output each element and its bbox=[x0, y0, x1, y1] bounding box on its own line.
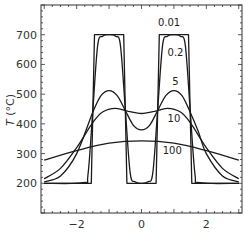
axis-ticks bbox=[41, 5, 242, 213]
curve-label: 10 bbox=[168, 113, 181, 124]
chart: 200300400500600700−202 0.010.2510100 T (… bbox=[0, 0, 245, 242]
y-tick-label: 700 bbox=[16, 29, 37, 42]
curve-label: 0.2 bbox=[168, 47, 184, 58]
y-tick-label: 500 bbox=[16, 88, 37, 101]
y-axis-label: T (°C) bbox=[4, 94, 17, 126]
y-tick-label: 400 bbox=[16, 118, 37, 131]
x-tick-label: 2 bbox=[203, 218, 210, 231]
y-tick-label: 600 bbox=[16, 58, 37, 71]
curve-labels: 0.010.2510100 bbox=[158, 17, 184, 156]
curve-label: 100 bbox=[163, 145, 182, 156]
curve-5 bbox=[44, 91, 239, 182]
y-tick-label: 300 bbox=[16, 148, 37, 161]
curve-0_01 bbox=[44, 35, 239, 184]
curve-label: 5 bbox=[172, 76, 178, 87]
x-tick-label: −2 bbox=[69, 218, 85, 231]
plot-frame bbox=[41, 5, 242, 213]
y-axis-label-unit: (°C) bbox=[4, 94, 17, 119]
x-tick-label: 0 bbox=[138, 218, 145, 231]
curve-0_2 bbox=[44, 35, 239, 184]
curve-100 bbox=[44, 141, 239, 160]
axis-tick-labels: 200300400500600700−202 bbox=[16, 29, 210, 231]
curves bbox=[44, 35, 239, 184]
y-tick-label: 200 bbox=[16, 177, 37, 190]
curve-label: 0.01 bbox=[158, 17, 180, 28]
curve-10 bbox=[44, 108, 239, 178]
